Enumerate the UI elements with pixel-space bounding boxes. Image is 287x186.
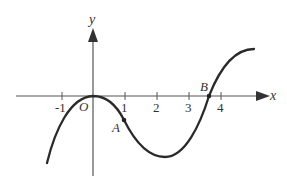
- point-b-marker: [207, 94, 212, 99]
- y-axis: [88, 28, 98, 176]
- tick-label-4: 4: [217, 100, 224, 115]
- tick-label-neg1: -1: [55, 100, 66, 115]
- point-b-label: B: [200, 79, 208, 94]
- function-graph: -1 1 2 3 4 x y O A B: [0, 0, 287, 186]
- y-axis-label: y: [87, 12, 96, 27]
- tick-label-3: 3: [185, 100, 192, 115]
- x-axis-label: x: [269, 88, 277, 103]
- point-a-marker: [122, 118, 127, 123]
- tick-label-2: 2: [153, 100, 160, 115]
- y-axis-arrow-icon: [88, 28, 98, 42]
- x-axis-arrow-icon: [256, 91, 270, 101]
- tick-label-1: 1: [121, 100, 128, 115]
- point-a-label: A: [111, 120, 120, 135]
